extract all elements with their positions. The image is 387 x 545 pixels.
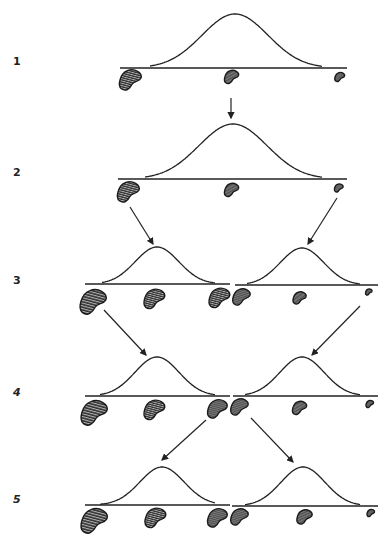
arrow-icon	[312, 306, 360, 355]
bean-icon	[79, 397, 109, 429]
bean-icon	[142, 287, 166, 312]
bean-icon	[223, 69, 239, 86]
bean-icon	[206, 397, 228, 421]
bean-icon	[334, 183, 344, 194]
bean-icon	[365, 288, 372, 296]
arrow-icon	[104, 310, 146, 355]
bean-icon	[291, 400, 307, 417]
bean-icon	[365, 399, 374, 408]
bean-icon	[223, 182, 239, 199]
bean-icon	[229, 397, 249, 418]
normal-distribution-curve	[145, 124, 322, 177]
bean-icon	[206, 506, 228, 530]
normal-distribution-curve	[245, 357, 360, 395]
arrow-icon	[130, 207, 153, 244]
normal-distribution-curve	[100, 357, 215, 395]
bean-icon	[292, 290, 307, 306]
bean-icon	[366, 508, 375, 517]
bean-icon	[296, 508, 313, 526]
bean-icon	[118, 67, 143, 93]
bean-icon	[142, 398, 166, 423]
normal-distribution-curve	[245, 467, 360, 505]
bean-icon	[231, 287, 251, 308]
normal-distribution-curve	[150, 14, 322, 66]
bean-icon	[229, 507, 249, 528]
arrow-icon	[162, 420, 206, 460]
normal-distribution-curve	[247, 248, 360, 284]
arrow-icon	[251, 418, 293, 462]
beans	[78, 67, 375, 537]
normal-distribution-curve	[100, 467, 215, 504]
bean-icon	[207, 286, 231, 311]
bean-selection-diagram	[0, 0, 387, 545]
bean-icon	[79, 505, 109, 537]
bean-icon	[334, 71, 345, 83]
bean-icon	[78, 286, 108, 318]
bean-icon	[116, 179, 141, 205]
normal-distribution-curve	[102, 247, 215, 283]
arrow-icon	[308, 198, 337, 244]
bean-icon	[143, 506, 167, 531]
